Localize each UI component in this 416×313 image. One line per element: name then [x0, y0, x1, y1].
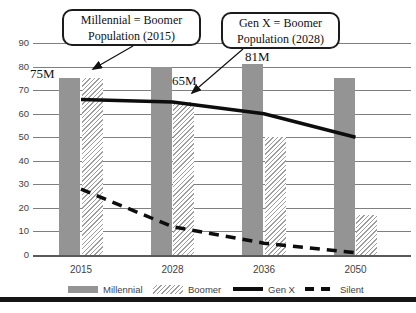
callout-line1: Gen X = Boomer	[223, 16, 338, 32]
callout-millennial-boomer: Millennial = Boomer Population (2015)	[62, 9, 201, 46]
annotation-81m: 81M	[245, 49, 270, 65]
legend-item-silent: Silent	[305, 283, 364, 295]
legend-swatch-dashed-line	[305, 287, 335, 291]
x-tick-label-2028: 2028	[151, 264, 195, 275]
callout-line1: Millennial = Boomer	[64, 13, 199, 29]
callout-line2: Population (2028)	[223, 32, 338, 48]
arrow-millennial-boomer	[93, 46, 133, 69]
x-tick-label-2015: 2015	[59, 264, 103, 275]
legend-item-genx: Gen X	[233, 283, 295, 295]
legend-label: Millennial	[103, 284, 143, 295]
x-tick-label-2036: 2036	[242, 264, 286, 275]
callout-line2: Population (2015)	[64, 29, 199, 45]
population-chart: 0102030405060708090 Millennial = Boomer …	[0, 0, 416, 313]
legend-swatch-solid-line	[233, 287, 263, 291]
legend-item-boomer: Boomer	[153, 283, 221, 295]
annotation-75m: 75M	[30, 66, 55, 82]
legend-item-millennial: Millennial	[68, 283, 143, 295]
legend-swatch-hatched	[153, 285, 183, 294]
arrow-genx-boomer	[192, 49, 243, 93]
annotation-65m: 65M	[172, 73, 197, 89]
callout-genx-boomer: Gen X = Boomer Population (2028)	[221, 12, 340, 49]
legend-label: Silent	[340, 284, 364, 295]
legend-swatch-solid-gray	[68, 286, 98, 293]
legend-label: Boomer	[188, 284, 221, 295]
x-tick-label-2050: 2050	[334, 264, 378, 275]
bottom-rule	[0, 297, 416, 302]
legend-label: Gen X	[268, 284, 295, 295]
